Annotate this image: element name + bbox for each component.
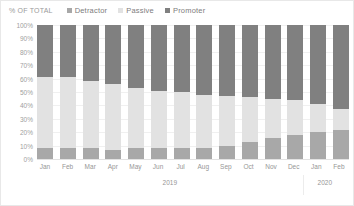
bar-segment-promoter[interactable] bbox=[60, 25, 76, 77]
bar-segment-detractor[interactable] bbox=[83, 148, 99, 159]
bar-column[interactable] bbox=[174, 25, 190, 159]
x-axis-tick: Feb bbox=[60, 163, 76, 175]
bar-segment-detractor[interactable] bbox=[333, 130, 349, 159]
legend-label-passive: Passive bbox=[126, 6, 154, 15]
bar-column[interactable] bbox=[60, 25, 76, 159]
bar-segment-promoter[interactable] bbox=[128, 25, 144, 88]
bar-segment-detractor[interactable] bbox=[310, 132, 326, 159]
x-axis-tick: Dec bbox=[286, 163, 302, 175]
x-axis-tick: Apr bbox=[105, 163, 121, 175]
bar-column[interactable] bbox=[151, 25, 167, 159]
y-axis-tick-100: 100% bbox=[16, 22, 33, 29]
bar-segment-passive[interactable] bbox=[310, 104, 326, 132]
y-axis-labels: 0%10%20%30%40%50%60%70%80%90%100% bbox=[1, 21, 35, 159]
bar-column[interactable] bbox=[128, 25, 144, 159]
bar-group bbox=[37, 25, 349, 159]
bar-segment-detractor[interactable] bbox=[60, 148, 76, 159]
grid-area bbox=[37, 25, 349, 159]
x-axis-tick: Oct bbox=[240, 163, 256, 175]
bar-segment-promoter[interactable] bbox=[37, 25, 53, 77]
legend-item-promoter[interactable]: Promoter bbox=[165, 6, 205, 15]
bar-column[interactable] bbox=[242, 25, 258, 159]
bar-column[interactable] bbox=[37, 25, 53, 159]
y-axis-tick-70: 70% bbox=[20, 62, 33, 69]
bar-segment-detractor[interactable] bbox=[37, 148, 53, 159]
bar-segment-passive[interactable] bbox=[219, 96, 235, 146]
legend-label-promoter: Promoter bbox=[173, 6, 205, 15]
x-axis-tick: Jan bbox=[37, 163, 53, 175]
bar-column[interactable] bbox=[310, 25, 326, 159]
bar-segment-promoter[interactable] bbox=[174, 25, 190, 92]
bar-segment-passive[interactable] bbox=[265, 99, 281, 138]
plot-area: 0%10%20%30%40%50%60%70%80%90%100% bbox=[1, 21, 354, 163]
bar-segment-detractor[interactable] bbox=[151, 148, 167, 159]
x-axis-tick: Jan bbox=[308, 163, 324, 175]
y-axis-tick-30: 30% bbox=[20, 115, 33, 122]
legend-swatch-detractor bbox=[67, 8, 72, 13]
bar-segment-passive[interactable] bbox=[128, 88, 144, 148]
stacked-bar-chart: % OF TOTAL Detractor Passive Promoter 0%… bbox=[0, 0, 354, 206]
bar-column[interactable] bbox=[333, 25, 349, 159]
bar-segment-detractor[interactable] bbox=[287, 135, 303, 159]
bar-segment-detractor[interactable] bbox=[219, 146, 235, 159]
y-axis-tick-90: 90% bbox=[20, 35, 33, 42]
y-axis-tick-10: 10% bbox=[20, 142, 33, 149]
bar-segment-passive[interactable] bbox=[105, 84, 121, 150]
x-axis-tick: Mar bbox=[82, 163, 98, 175]
bar-segment-promoter[interactable] bbox=[287, 25, 303, 100]
bar-segment-detractor[interactable] bbox=[242, 142, 258, 159]
bar-column[interactable] bbox=[196, 25, 212, 159]
bar-segment-promoter[interactable] bbox=[310, 25, 326, 104]
bar-column[interactable] bbox=[105, 25, 121, 159]
bar-segment-passive[interactable] bbox=[242, 97, 258, 141]
x-axis-tick: May bbox=[127, 163, 143, 175]
y-axis-tick-80: 80% bbox=[20, 48, 33, 55]
bar-segment-detractor[interactable] bbox=[265, 138, 281, 159]
bar-segment-promoter[interactable] bbox=[196, 25, 212, 95]
bar-segment-detractor[interactable] bbox=[128, 148, 144, 159]
bar-column[interactable] bbox=[219, 25, 235, 159]
bar-segment-passive[interactable] bbox=[196, 95, 212, 149]
bar-segment-passive[interactable] bbox=[151, 91, 167, 149]
y-axis-title: % OF TOTAL bbox=[9, 7, 53, 14]
legend-item-detractor[interactable]: Detractor bbox=[67, 6, 108, 15]
bar-segment-promoter[interactable] bbox=[105, 25, 121, 84]
bar-segment-passive[interactable] bbox=[60, 77, 76, 148]
bar-segment-detractor[interactable] bbox=[105, 150, 121, 159]
bar-segment-promoter[interactable] bbox=[333, 25, 349, 109]
bar-segment-promoter[interactable] bbox=[83, 25, 99, 81]
legend-label-detractor: Detractor bbox=[75, 6, 108, 15]
y-axis-tick-20: 20% bbox=[20, 129, 33, 136]
bar-segment-passive[interactable] bbox=[37, 77, 53, 148]
chart-legend: % OF TOTAL Detractor Passive Promoter bbox=[9, 6, 216, 15]
x-axis-labels: JanFebMarAprMayJunJulAugSepOctNovDecJanF… bbox=[37, 163, 347, 175]
bar-segment-promoter[interactable] bbox=[242, 25, 258, 97]
y-axis-tick-60: 60% bbox=[20, 75, 33, 82]
bar-segment-passive[interactable] bbox=[287, 100, 303, 135]
bar-segment-passive[interactable] bbox=[333, 109, 349, 129]
bar-segment-promoter[interactable] bbox=[219, 25, 235, 96]
x-axis-year-labels: 20192020 bbox=[37, 179, 347, 195]
bar-segment-promoter[interactable] bbox=[265, 25, 281, 99]
bar-segment-promoter[interactable] bbox=[151, 25, 167, 91]
year-label: 2019 bbox=[37, 179, 303, 186]
x-axis-tick: Nov bbox=[263, 163, 279, 175]
legend-item-passive[interactable]: Passive bbox=[118, 6, 154, 15]
x-axis-tick: Sep bbox=[218, 163, 234, 175]
bar-segment-passive[interactable] bbox=[174, 92, 190, 148]
y-axis-tick-50: 50% bbox=[20, 89, 33, 96]
y-axis-tick-0: 0% bbox=[24, 156, 33, 163]
gridline bbox=[37, 159, 349, 160]
y-axis-tick-40: 40% bbox=[20, 102, 33, 109]
bar-segment-detractor[interactable] bbox=[196, 148, 212, 159]
bar-segment-detractor[interactable] bbox=[174, 148, 190, 159]
bar-column[interactable] bbox=[287, 25, 303, 159]
year-separator bbox=[303, 175, 304, 195]
bar-column[interactable] bbox=[265, 25, 281, 159]
x-axis-tick: Jun bbox=[150, 163, 166, 175]
x-axis-tick: Feb bbox=[331, 163, 347, 175]
bar-column[interactable] bbox=[83, 25, 99, 159]
x-axis-tick: Jul bbox=[173, 163, 189, 175]
year-label: 2020 bbox=[303, 179, 347, 186]
bar-segment-passive[interactable] bbox=[83, 81, 99, 148]
